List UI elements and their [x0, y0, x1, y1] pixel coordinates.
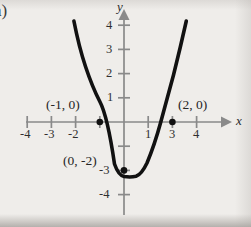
- x-tick-label--2: -2: [68, 127, 78, 142]
- point-marker-x-intercept-left: [97, 119, 104, 126]
- y-tick-label--4: -4: [99, 187, 109, 202]
- x-tick-label-4: 4: [193, 127, 199, 142]
- x-tick-label--4: -4: [20, 127, 30, 142]
- coordinate-plane: [0, 0, 251, 227]
- parabola-figure: a): [0, 0, 251, 227]
- point-marker-x-intercept-right: [169, 119, 176, 126]
- annotation-x-intercept-right: (2, 0): [178, 97, 207, 113]
- y-tick-label-2: 2: [106, 66, 112, 81]
- y-tick-label--3: -3: [99, 163, 109, 178]
- y-tick-label-4: 4: [106, 18, 112, 33]
- point-marker-y-intercept: [121, 167, 128, 174]
- x-tick-label-1: 1: [145, 127, 151, 142]
- y-tick-label-1: 1: [107, 90, 113, 105]
- x-tick-label-3: 3: [169, 127, 175, 142]
- parabola-helper: [74, 21, 124, 170]
- annotation-x-intercept-left: (-1, 0): [46, 97, 80, 113]
- x-axis-name: x: [236, 113, 242, 129]
- x-axis-arrowhead: [221, 117, 232, 128]
- x-tick-label--3: -3: [44, 127, 54, 142]
- y-axis-name: y: [117, 0, 123, 15]
- annotation-y-intercept: (0, -2): [63, 153, 97, 169]
- y-tick-label-3: 3: [106, 42, 112, 57]
